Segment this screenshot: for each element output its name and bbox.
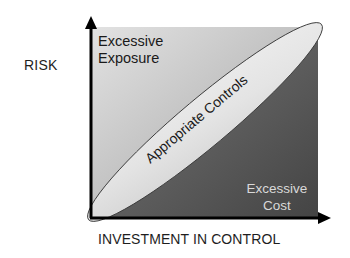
y-axis-arrow-icon: [85, 16, 97, 29]
excessive-cost-label: Excessive Cost: [237, 180, 317, 214]
excessive-exposure-label: Excessive Exposure: [98, 33, 163, 67]
x-axis-label: INVESTMENT IN CONTROL: [98, 231, 280, 247]
excessive-cost-line1: Excessive: [237, 180, 317, 197]
excessive-exposure-line1: Excessive: [98, 33, 163, 50]
x-axis-arrow-icon: [318, 212, 331, 224]
excessive-cost-line2: Cost: [237, 197, 317, 214]
excessive-exposure-line2: Exposure: [98, 50, 163, 67]
y-axis-label: RISK: [24, 57, 57, 73]
